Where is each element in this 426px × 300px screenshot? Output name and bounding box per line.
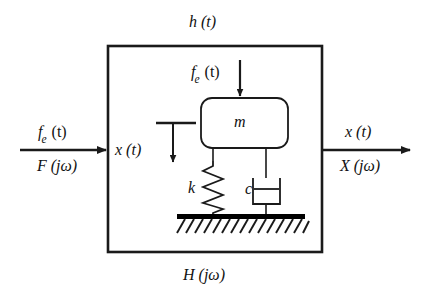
mass-force-label: fe (t) <box>191 64 220 84</box>
input-force-spectrum-label: F (jω) <box>37 158 77 174</box>
frequency-response-label: H (jω) <box>183 267 225 283</box>
output-displacement-spectrum-label: X (jω) <box>340 158 380 174</box>
damping-coefficient-label: c <box>245 181 252 197</box>
interior-displacement-label: x (t) <box>115 142 141 158</box>
output-displacement-time-label: x (t) <box>345 124 371 140</box>
spring-constant-label: k <box>188 180 195 196</box>
mass-force-argument: (t) <box>201 63 220 80</box>
diagram-canvas: h (t) H (jω) fe (t) F (jω) x (t) X (jω) … <box>0 0 426 300</box>
mass-spring-damper-schematic <box>0 0 426 300</box>
mass-label: m <box>234 114 246 130</box>
input-force-argument: (t) <box>48 123 67 140</box>
ground-bar <box>177 214 305 219</box>
impulse-response-label: h (t) <box>189 14 216 30</box>
mass-force-subscript: e <box>194 73 199 85</box>
input-force-time-label: fe (t) <box>38 124 67 144</box>
damper-cylinder <box>253 178 280 204</box>
input-force-subscript: e <box>41 133 46 145</box>
